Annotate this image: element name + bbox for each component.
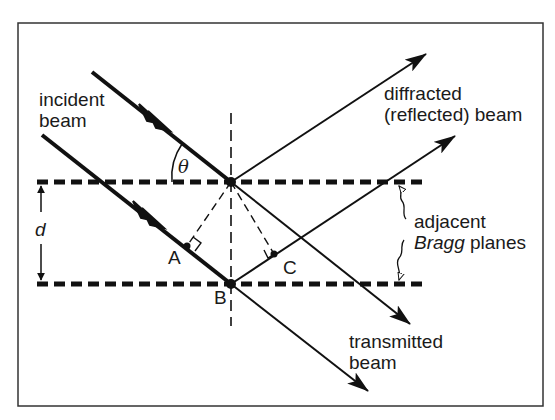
incident-arrowhead-1 <box>139 104 170 131</box>
transmitted-label-line1: transmitted <box>349 331 443 352</box>
point-b-label: B <box>214 287 227 308</box>
adjacent-label: adjacent <box>414 211 526 232</box>
diffracted-label-line1: diffracted <box>384 83 522 104</box>
incident-label-line1: incident <box>39 89 105 110</box>
perpendicular-to-c <box>231 182 274 254</box>
incident-arrowhead-2 <box>133 201 164 228</box>
transmitted-label-line2: beam <box>349 352 443 373</box>
point-c <box>271 251 278 258</box>
diffracted-beam-2 <box>231 136 455 284</box>
planes-label: planes <box>470 232 526 253</box>
transmitted-beam-1 <box>231 182 410 324</box>
point-b <box>226 279 236 289</box>
diffracted-beam-label: diffracted (reflected) beam <box>384 83 522 125</box>
transmitted-beam-2 <box>231 284 368 391</box>
adjacent-bragg-planes-label: adjacent Bragg planes <box>414 211 526 253</box>
incident-label-line2: beam <box>39 110 105 131</box>
bragg-leader-upper <box>399 186 406 219</box>
transmitted-beam-label: transmitted beam <box>349 331 443 373</box>
point-c-label: C <box>283 257 297 278</box>
point-a <box>184 243 191 250</box>
bragg-diagram: incident beam diffracted (reflected) bea… <box>0 0 555 420</box>
point-a-label: A <box>168 247 181 268</box>
diffracted-label-line2: (reflected) beam <box>384 104 522 125</box>
bragg-leader-lower <box>397 240 404 280</box>
scatter-point-top <box>226 177 236 187</box>
theta-label: θ <box>178 156 189 177</box>
bragg-label: Bragg <box>414 232 465 253</box>
right-angle-mark-a <box>193 237 201 251</box>
incident-beam-label: incident beam <box>39 89 105 131</box>
perpendicular-to-a <box>187 182 231 246</box>
bragg-planes-line: Bragg planes <box>414 232 526 253</box>
d-spacing-label: d <box>35 219 46 240</box>
